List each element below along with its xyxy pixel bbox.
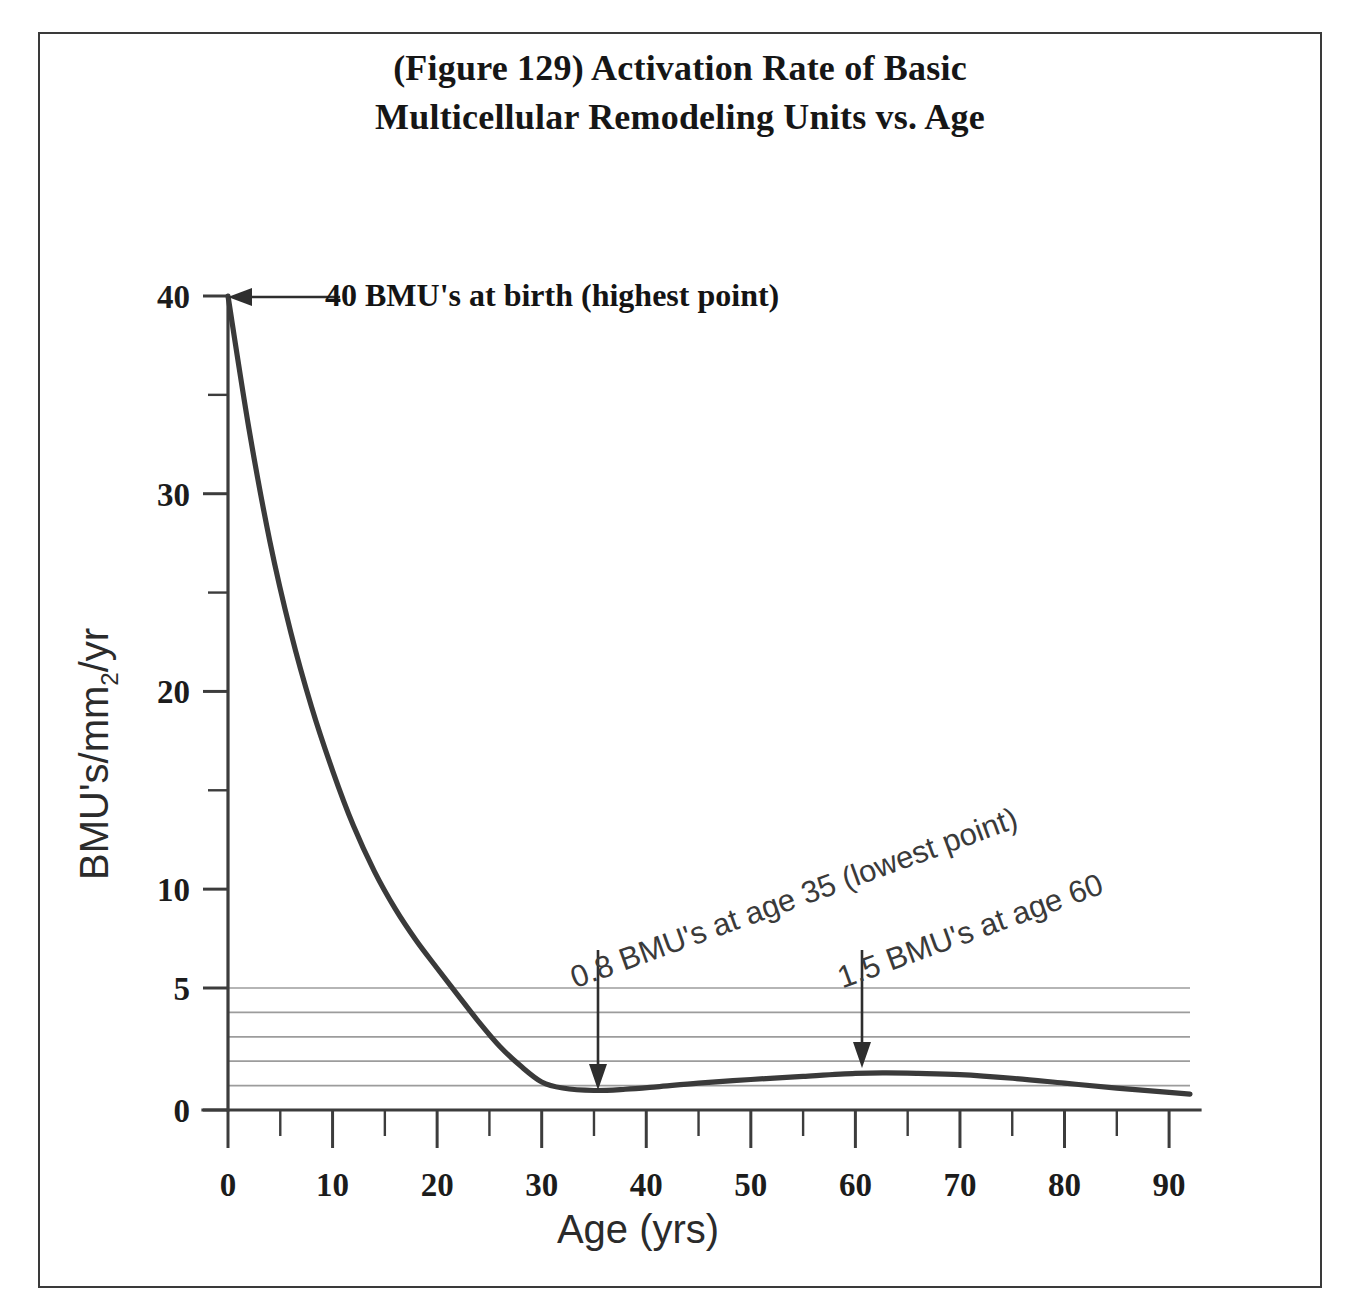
x-tick-label: 30: [525, 1167, 558, 1203]
x-axis-title: Age (yrs): [557, 1207, 719, 1251]
x-tick-label: 90: [1153, 1167, 1186, 1203]
x-tick-label: 20: [421, 1167, 454, 1203]
bmu-activation-curve: [228, 296, 1190, 1094]
x-tick-label: 10: [316, 1167, 349, 1203]
y-tick-label: 20: [157, 674, 190, 710]
x-tick-label: 40: [630, 1167, 663, 1203]
x-axis-tick-labels: 0102030405060708090: [220, 1167, 1186, 1203]
y-axis-title-subscript: 2: [96, 672, 123, 685]
y-tick-label: 30: [157, 477, 190, 513]
y-tick-label: 5: [174, 971, 191, 1007]
x-tick-label: 60: [839, 1167, 872, 1203]
x-axis-ticks: [228, 1110, 1169, 1148]
y-axis-title-tail: /yr: [72, 628, 116, 672]
y-tick-label: 0: [174, 1093, 191, 1129]
y-tick-label: 10: [157, 872, 190, 908]
x-tick-label: 0: [220, 1167, 237, 1203]
x-tick-label: 50: [734, 1167, 767, 1203]
figure-container: (Figure 129) Activation Rate of Basic Mu…: [0, 0, 1356, 1313]
chart-plot: 0510203040 0102030405060708090 BMU's/mm2…: [0, 0, 1356, 1313]
x-tick-label: 80: [1048, 1167, 1081, 1203]
y-axis-title: BMU's/mm2/yr: [72, 628, 123, 880]
y-axis-ticks: [203, 296, 228, 1110]
gridlines: [228, 988, 1190, 1086]
y-tick-label: 40: [157, 279, 190, 315]
birth-callout-arrow: [228, 288, 340, 306]
svg-text:BMU's/mm2/yr: BMU's/mm2/yr: [72, 628, 123, 880]
birth-callout-label: 40 BMU's at birth (highest point): [325, 277, 779, 314]
x-tick-label: 70: [943, 1167, 976, 1203]
y-axis-tick-labels: 0510203040: [157, 279, 190, 1129]
y-axis-title-base: BMU's/mm: [72, 686, 116, 880]
